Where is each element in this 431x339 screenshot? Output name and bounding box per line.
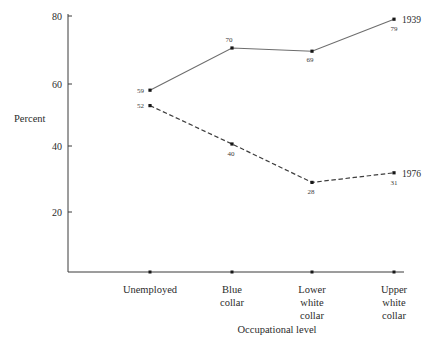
x-tick-upper-white-collar xyxy=(393,271,396,274)
y-axis-title: Percent xyxy=(14,113,46,124)
data-point-1976-blue-collar xyxy=(230,142,233,145)
point-label-1939-upper-white-collar: 79 xyxy=(391,25,399,33)
point-label-1976-blue-collar: 40 xyxy=(228,150,236,158)
y-axis-ticks xyxy=(68,16,72,212)
series-label-1976: 1976 xyxy=(402,169,421,179)
data-point-1976-upper-white-collar xyxy=(392,171,395,174)
series-line-1976 xyxy=(150,106,394,183)
x-tick-lower-white-collar xyxy=(311,271,314,274)
point-label-1939-blue-collar: 70 xyxy=(226,36,234,44)
category-label-unemployed-line1: Unemployed xyxy=(123,284,178,295)
y-tick-label-60: 60 xyxy=(52,79,62,90)
category-label-blue-collar-line1: Blue xyxy=(222,284,242,295)
line-chart: 80 60 40 20 Percent xyxy=(0,0,431,339)
category-label-upper-white-collar-line1: Upper xyxy=(381,284,408,295)
y-tick-label-80: 80 xyxy=(52,11,62,22)
x-axis-category-labels: Unemployed Blue collar Lower white colla… xyxy=(123,284,408,321)
point-label-1976-upper-white-collar: 31 xyxy=(391,179,399,187)
point-label-1939-unemployed: 59 xyxy=(137,87,145,95)
category-label-upper-white-collar-line3: collar xyxy=(382,310,406,321)
x-axis-title: Occupational level xyxy=(237,324,316,335)
x-tick-blue-collar xyxy=(231,271,234,274)
category-label-blue-collar-line2: collar xyxy=(220,297,244,308)
point-label-1976-unemployed: 52 xyxy=(137,102,145,110)
data-point-1939-upper-white-collar xyxy=(392,18,395,21)
data-point-1976-lower-white-collar xyxy=(310,181,313,184)
chart-container: 80 60 40 20 Percent xyxy=(0,0,431,339)
category-label-lower-white-collar-line1: Lower xyxy=(298,284,326,295)
data-point-1939-lower-white-collar xyxy=(310,50,313,53)
data-point-1939-blue-collar xyxy=(230,46,233,49)
category-label-upper-white-collar-line2: white xyxy=(382,297,406,308)
y-tick-label-20: 20 xyxy=(52,207,62,218)
series-label-1939: 1939 xyxy=(402,15,421,25)
series-markers-1976 xyxy=(148,104,395,184)
y-tick-label-40: 40 xyxy=(52,141,62,152)
point-label-1976-lower-white-collar: 28 xyxy=(308,188,316,196)
category-label-lower-white-collar-line2: white xyxy=(300,297,324,308)
series-line-1939 xyxy=(150,19,394,90)
x-tick-unemployed xyxy=(149,271,152,274)
data-point-1976-unemployed xyxy=(148,104,151,107)
category-label-lower-white-collar-line3: collar xyxy=(300,310,324,321)
series-markers-1939 xyxy=(148,18,395,92)
point-label-1939-lower-white-collar: 69 xyxy=(307,56,315,64)
data-point-1939-unemployed xyxy=(148,89,151,92)
